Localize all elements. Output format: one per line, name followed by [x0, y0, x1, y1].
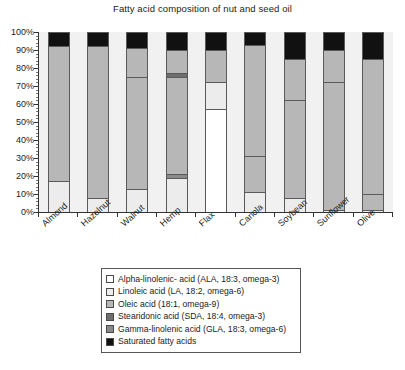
x-axis-tick-mark — [353, 213, 354, 217]
y-axis-tick-label: 50% — [16, 118, 34, 127]
bar-segment-sat — [48, 32, 70, 46]
legend-item[interactable]: Alpha-linolenic- acid (ALA, 18:3, omega-… — [106, 273, 295, 286]
legend-swatch-icon — [106, 288, 114, 296]
legend-swatch-icon — [106, 313, 114, 321]
y-axis-tick-label: 60% — [16, 100, 34, 109]
legend-label: Stearidonic acid (SDA, 18:4, omega-3) — [118, 312, 265, 321]
bar-segment-sat — [284, 32, 306, 59]
y-axis-tick-label: 70% — [16, 82, 34, 91]
chart-title: Fatty acid composition of nut and seed o… — [0, 3, 405, 14]
bar-segment-ala — [205, 109, 227, 212]
bar-segment-sda — [166, 73, 188, 77]
bar-walnut[interactable] — [126, 32, 148, 212]
legend-item[interactable]: Stearidonic acid (SDA, 18:4, omega-3) — [106, 311, 295, 324]
bar-segment-oleic — [244, 156, 266, 192]
legend-label: Saturated fatty acids — [118, 337, 196, 346]
y-axis-tick-label: 40% — [16, 136, 34, 145]
bar-olive[interactable] — [362, 32, 384, 212]
legend-item[interactable]: Linoleic acid (LA, 18:2, omega-6) — [106, 286, 295, 299]
legend-label: Gamma-linolenic acid (GLA, 18:3, omega-6… — [118, 325, 286, 334]
legend-swatch-icon — [106, 300, 114, 308]
legend-item[interactable]: Saturated fatty acids — [106, 336, 295, 349]
bar-flax[interactable] — [205, 32, 227, 212]
bar-segment-oleic — [362, 194, 384, 210]
legend-label: Alpha-linolenic- acid (ALA, 18:3, omega-… — [118, 275, 279, 284]
bar-segment-sat — [126, 32, 148, 48]
bar-segment-oleic2 — [323, 50, 345, 82]
bar-segment-gla — [166, 174, 188, 178]
bar-segment-oleic — [284, 100, 306, 197]
bar-segment-sat — [87, 32, 109, 46]
legend-swatch-icon — [106, 325, 114, 333]
y-axis-tick-label: 90% — [16, 46, 34, 55]
x-axis-tick-mark — [38, 213, 39, 217]
y-axis-tick-label: 20% — [16, 172, 34, 181]
bar-segment-oleic — [323, 82, 345, 210]
bar-segment-oleic2 — [126, 48, 148, 77]
x-axis: AlmondHazelnutWalnutHempFlaxCanolaSoybea… — [38, 213, 392, 263]
y-axis-tick-label: 100% — [11, 28, 34, 37]
bar-canola[interactable] — [244, 32, 266, 212]
plot-area — [38, 32, 393, 213]
bar-segment-oleic2 — [284, 59, 306, 100]
bar-sunflower[interactable] — [323, 32, 345, 212]
x-axis-tick-mark — [117, 213, 118, 217]
bar-segment-oleic2 — [205, 50, 227, 82]
y-axis-tick-label: 0% — [21, 208, 34, 217]
chart-figure: Fatty acid composition of nut and seed o… — [0, 0, 405, 370]
bar-segment-oleic — [48, 46, 70, 181]
x-axis-tick-mark — [235, 213, 236, 217]
legend-label: Oleic acid (18:1, omega-9) — [118, 300, 219, 309]
x-axis-label-flax: Flax — [197, 210, 216, 229]
legend-item[interactable]: Oleic acid (18:1, omega-9) — [106, 298, 295, 311]
legend-item[interactable]: Gamma-linolenic acid (GLA, 18:3, omega-6… — [106, 323, 295, 336]
legend-swatch-icon — [106, 338, 114, 346]
bar-segment-oleic2 — [362, 59, 384, 194]
bar-segment-sat — [323, 32, 345, 50]
bar-almond[interactable] — [48, 32, 70, 212]
y-axis-tick-label: 30% — [16, 154, 34, 163]
bar-segment-oleic — [166, 77, 188, 174]
chart-legend: Alpha-linolenic- acid (ALA, 18:3, omega-… — [101, 268, 301, 353]
bar-segment-sat — [205, 32, 227, 50]
bar-segment-sat — [244, 32, 266, 45]
bar-soybean[interactable] — [284, 32, 306, 212]
bar-hazelnut[interactable] — [87, 32, 109, 212]
x-axis-tick-mark — [392, 213, 393, 217]
x-axis-tick-mark — [313, 213, 314, 217]
bar-segment-oleic2 — [244, 45, 266, 157]
legend-swatch-icon — [106, 275, 114, 283]
bar-hemp[interactable] — [166, 32, 188, 212]
bar-segment-sat — [166, 32, 188, 50]
legend-label: Linoleic acid (LA, 18:2, omega-6) — [118, 287, 244, 296]
y-axis: 0%10%20%30%40%50%60%70%80%90%100% — [0, 32, 38, 213]
bar-segment-oleic2 — [166, 50, 188, 73]
x-axis-tick-mark — [156, 213, 157, 217]
x-axis-tick-mark — [274, 213, 275, 217]
x-axis-tick-mark — [195, 213, 196, 217]
y-axis-tick-label: 10% — [16, 190, 34, 199]
x-axis-tick-mark — [77, 213, 78, 217]
bar-segment-oleic — [126, 77, 148, 189]
bar-segment-la — [205, 82, 227, 109]
bar-segment-sat — [362, 32, 384, 59]
y-axis-tick-label: 80% — [16, 64, 34, 73]
bar-segment-oleic — [87, 46, 109, 197]
